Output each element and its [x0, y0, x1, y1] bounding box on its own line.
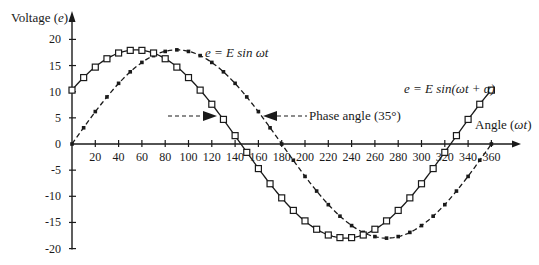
data-point [187, 50, 191, 54]
y-tick-label: 15 [49, 59, 61, 73]
data-point [128, 70, 132, 74]
data-point [163, 50, 167, 54]
data-point [292, 158, 296, 162]
data-point [186, 75, 192, 81]
data-point [314, 226, 320, 232]
data-point [325, 232, 331, 238]
phase-arrow-right-icon [203, 111, 217, 121]
data-point [303, 175, 307, 179]
data-point [175, 48, 179, 52]
x-tick-label: 180 [273, 150, 291, 164]
data-point [198, 54, 202, 58]
data-point [478, 158, 482, 162]
x-tick-label: 100 [180, 150, 198, 164]
y-tick-label: 5 [55, 111, 61, 125]
data-point [477, 101, 483, 107]
data-point [92, 64, 98, 70]
data-point [455, 189, 459, 193]
data-point [420, 224, 424, 228]
y-tick-label: -15 [45, 215, 61, 229]
phase-annotation [168, 111, 307, 121]
data-point [255, 166, 261, 172]
axes: 20151050-5-10-15-20204060801001201401601… [45, 11, 521, 256]
data-point [327, 203, 331, 207]
data-point [419, 181, 425, 187]
data-point [116, 50, 122, 56]
data-point [431, 214, 435, 218]
data-point [466, 175, 470, 179]
data-point [385, 236, 389, 240]
x-tick-label: 40 [113, 150, 125, 164]
data-point [465, 116, 471, 122]
data-point [360, 232, 366, 238]
data-point [349, 235, 355, 241]
data-point [395, 207, 401, 213]
x-tick-label: 120 [203, 150, 221, 164]
data-point [82, 126, 86, 130]
data-point [290, 207, 296, 213]
phase-arrow-left-icon [263, 111, 277, 121]
data-point [220, 116, 226, 122]
data-point [209, 101, 215, 107]
series-shifted-sine-label: e = E sin(ωt + α) [404, 81, 495, 96]
data-point [396, 235, 400, 239]
x-tick-label: 200 [296, 150, 314, 164]
data-point [453, 133, 459, 139]
x-tick-label: 300 [413, 150, 431, 164]
y-axis-arrow-icon [69, 11, 76, 22]
data-point [408, 231, 412, 235]
data-point [244, 149, 250, 155]
data-point [127, 47, 133, 53]
y-tick-label: -10 [45, 189, 61, 203]
data-point [162, 56, 168, 62]
data-point [70, 142, 74, 146]
phase-angle-label: Phase angle (35°) [309, 108, 401, 123]
data-point [245, 95, 249, 99]
data-point [442, 149, 448, 155]
data-point [302, 218, 308, 224]
x-tick-label: 280 [389, 150, 407, 164]
data-point [104, 56, 110, 62]
x-axis-label: Angle (ωt) [475, 117, 532, 132]
data-point [384, 218, 390, 224]
x-tick-label: 20 [89, 150, 101, 164]
x-tick-label: 240 [343, 150, 361, 164]
x-tick-label: 160 [249, 150, 267, 164]
data-point [81, 75, 87, 81]
x-tick-label: 220 [319, 150, 337, 164]
y-tick-label: 20 [49, 32, 61, 46]
data-point [407, 195, 413, 201]
data-point [257, 110, 261, 114]
data-point [268, 126, 272, 130]
data-point [174, 64, 180, 70]
x-tick-label: 260 [366, 150, 384, 164]
x-tick-label: 340 [459, 150, 477, 164]
series-sine-label: e = E sin ωt [205, 45, 269, 60]
data-point [105, 95, 109, 99]
data-point [373, 235, 377, 239]
data-point [117, 82, 121, 86]
data-point [233, 82, 237, 86]
x-axis-arrow-icon [512, 141, 521, 148]
y-axis-label: Voltage (e) [11, 10, 68, 25]
data-point [338, 214, 342, 218]
y-tick-label: 0 [55, 137, 61, 151]
y-tick-label: -20 [45, 242, 61, 256]
data-point [140, 61, 144, 65]
x-tick-label: 80 [159, 150, 171, 164]
data-point [222, 70, 226, 74]
data-point [280, 142, 284, 146]
data-point [232, 133, 238, 139]
data-point [337, 235, 343, 241]
data-point [350, 224, 354, 228]
data-point [94, 110, 98, 114]
sine-phase-chart: 20151050-5-10-15-20204060801001201401601… [0, 0, 539, 265]
data-point [69, 87, 75, 93]
y-tick-label: -5 [51, 163, 61, 177]
x-tick-label: 140 [226, 150, 244, 164]
data-point [197, 87, 203, 93]
data-point [372, 226, 378, 232]
data-point [443, 203, 447, 207]
x-tick-label: 60 [136, 150, 148, 164]
data-point [490, 142, 494, 146]
